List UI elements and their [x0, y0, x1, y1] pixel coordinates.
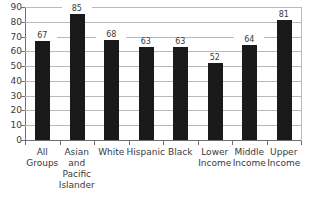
- bar-value-label: 52: [200, 54, 230, 62]
- y-axis-tick-label: 0: [0, 136, 22, 145]
- bar[interactable]: [242, 45, 257, 140]
- bar-slot: 63: [129, 7, 164, 140]
- x-axis-tick-mark: [129, 141, 130, 145]
- x-axis-tick-mark: [198, 141, 199, 145]
- plot-right-edge: [301, 7, 302, 141]
- x-axis-tick-mark: [267, 141, 268, 145]
- bar-chart: 9080706050403020100 6785686363526481 All…: [0, 0, 313, 203]
- y-axis-tick-label: 40: [0, 77, 22, 86]
- bar-slot: 68: [94, 7, 129, 140]
- bar[interactable]: [35, 41, 50, 140]
- bar-value-label: 67: [27, 32, 57, 40]
- x-axis-tick-mark: [94, 141, 95, 145]
- y-axis-tick-label: 80: [0, 18, 22, 27]
- y-axis-tick-label: 10: [0, 121, 22, 130]
- x-axis-category-label: Upper Income: [261, 147, 308, 169]
- bar[interactable]: [139, 47, 154, 140]
- bar[interactable]: [208, 63, 223, 140]
- bar-slot: 85: [60, 7, 95, 140]
- bar[interactable]: [277, 20, 292, 140]
- y-axis-tick-label: 70: [0, 33, 22, 42]
- y-axis-tick-label: 90: [0, 3, 22, 12]
- bar-value-label: 63: [165, 38, 195, 46]
- x-axis-tick-mark: [60, 141, 61, 145]
- y-axis-tick-label: 30: [0, 92, 22, 101]
- y-axis-tick-label: 50: [0, 62, 22, 71]
- bar-slot: 64: [232, 7, 267, 140]
- bar[interactable]: [70, 14, 85, 140]
- bar[interactable]: [104, 40, 119, 140]
- bar-value-label: 68: [96, 31, 126, 39]
- bar-slot: 63: [163, 7, 198, 140]
- x-axis-tick-mark: [301, 141, 302, 145]
- x-axis-labels: All GroupsAsian and Pacific IslanderWhit…: [25, 147, 302, 203]
- bar-slot: 52: [198, 7, 233, 140]
- x-axis-tick-mark: [25, 141, 26, 145]
- x-axis-tick-mark: [163, 141, 164, 145]
- bar[interactable]: [173, 47, 188, 140]
- y-axis-tick-label: 20: [0, 106, 22, 115]
- bar-value-label: 85: [62, 5, 92, 13]
- plot-area: 6785686363526481: [25, 7, 301, 140]
- bar-value-label: 81: [269, 11, 299, 19]
- bar-value-label: 64: [234, 36, 264, 44]
- x-axis-tick-mark: [232, 141, 233, 145]
- bar-value-label: 63: [131, 38, 161, 46]
- bar-slot: 67: [25, 7, 60, 140]
- bar-slot: 81: [267, 7, 302, 140]
- y-axis-tick-label: 60: [0, 47, 22, 56]
